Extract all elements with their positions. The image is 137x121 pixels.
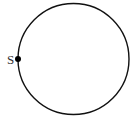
circle [18, 4, 129, 115]
point-s-label: S [7, 52, 14, 67]
point-s-marker [15, 56, 21, 62]
diagram-canvas: S [0, 0, 137, 121]
